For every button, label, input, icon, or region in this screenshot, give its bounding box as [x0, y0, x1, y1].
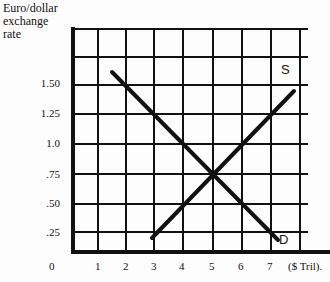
x-tick: 4 [179, 260, 185, 272]
y-tick: .50 [20, 197, 60, 209]
demand-label: D [279, 232, 288, 247]
chart-root: Euro/dollar exchange rate [0, 0, 330, 282]
y-tick: .25 [20, 226, 60, 238]
x-tick: 2 [123, 260, 129, 272]
x-tick: 6 [238, 260, 244, 272]
demand-curve [112, 72, 278, 240]
y-tick: 1.0 [20, 137, 60, 149]
x-tick: 1 [95, 260, 101, 272]
x-tick: 7 [267, 260, 273, 272]
origin-label: 0 [49, 260, 55, 272]
x-tick: 3 [151, 260, 157, 272]
supply-label: S [281, 62, 290, 77]
y-tick: 1.50 [20, 77, 60, 89]
y-tick: .75 [20, 168, 60, 180]
x-tick: 5 [209, 260, 215, 272]
x-axis-unit: ($ Tril). [288, 260, 322, 272]
y-tick: 1.25 [20, 107, 60, 119]
axes [71, 27, 330, 254]
grid [72, 29, 308, 252]
